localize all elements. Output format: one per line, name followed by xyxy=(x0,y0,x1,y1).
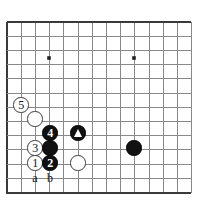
go-board-diagram: 54312 ab xyxy=(0,0,202,210)
point-label-b[interactable]: b xyxy=(43,172,57,184)
point-label-layer: ab xyxy=(0,0,202,210)
point-label-a[interactable]: a xyxy=(28,172,42,184)
